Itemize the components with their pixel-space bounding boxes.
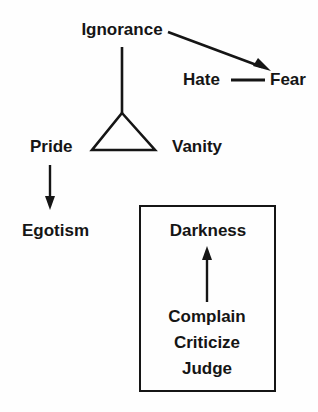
node-judge: Judge bbox=[182, 360, 232, 377]
triangle bbox=[92, 113, 155, 150]
node-darkness: Darkness bbox=[170, 222, 247, 239]
complain-to-darkness-arrow bbox=[202, 246, 212, 302]
node-complain: Complain bbox=[168, 308, 245, 325]
ignorance-to-hate-fear-arrow bbox=[168, 32, 271, 71]
node-egotism: Egotism bbox=[22, 222, 89, 239]
node-vanity: Vanity bbox=[172, 138, 222, 155]
pride-to-egotism-arrow bbox=[45, 165, 55, 210]
node-fear: Fear bbox=[270, 71, 306, 88]
node-ignorance: Ignorance bbox=[81, 21, 162, 38]
diagram-canvas: Ignorance Hate Fear Pride Vanity Egotism… bbox=[0, 0, 318, 412]
node-pride: Pride bbox=[30, 138, 73, 155]
diagram-vector-layer bbox=[0, 0, 318, 412]
node-criticize: Criticize bbox=[174, 334, 240, 351]
node-hate: Hate bbox=[183, 71, 220, 88]
